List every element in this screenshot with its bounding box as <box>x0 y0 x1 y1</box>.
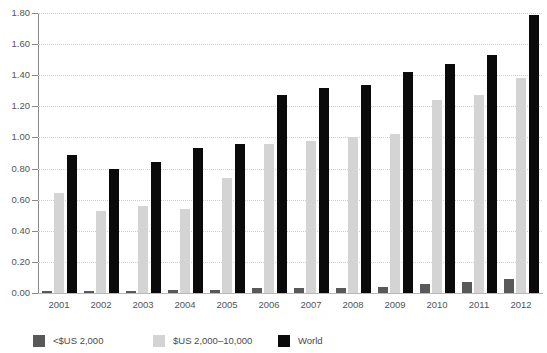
bar <box>126 291 136 293</box>
x-axis-tick-label: 2001 <box>48 299 69 310</box>
y-axis-tick <box>32 231 38 232</box>
x-axis-tick-label: 2012 <box>510 299 531 310</box>
bar <box>193 148 203 293</box>
x-axis-tick-label: 2010 <box>426 299 447 310</box>
y-axis-tick-label: 1.80 <box>0 8 30 18</box>
bar <box>54 193 64 293</box>
y-axis-tick-label: 0.80 <box>0 164 30 174</box>
bar <box>294 288 304 293</box>
bar <box>264 144 274 293</box>
y-axis-tick-label: 0.60 <box>0 195 30 205</box>
legend-label: World <box>298 336 323 346</box>
bar <box>361 85 371 293</box>
y-axis-tick-label: 0.20 <box>0 257 30 267</box>
bar <box>42 291 52 293</box>
gridline <box>38 44 542 45</box>
y-axis-tick <box>32 200 38 201</box>
legend-item[interactable]: <$US 2,000 <box>33 335 103 347</box>
bar <box>138 206 148 293</box>
y-axis-tick <box>32 13 38 14</box>
bar <box>474 95 484 293</box>
bar <box>180 209 190 293</box>
bar <box>306 141 316 293</box>
legend-swatch-icon <box>153 335 165 347</box>
y-axis-tick <box>32 137 38 138</box>
y-axis-tick <box>32 293 38 294</box>
y-axis-tick <box>32 262 38 263</box>
y-axis-tick-label: 0.40 <box>0 226 30 236</box>
x-axis-tick-label: 2007 <box>300 299 321 310</box>
y-axis-tick <box>32 44 38 45</box>
legend-swatch-icon <box>278 335 290 347</box>
x-axis-tick-label: 2011 <box>469 299 489 310</box>
y-axis-tick-label: 1.20 <box>0 102 30 112</box>
y-axis-labels: 0.000.200.400.600.801.001.201.401.601.80 <box>0 0 30 353</box>
y-axis-tick <box>32 106 38 107</box>
bar <box>445 64 455 293</box>
bar <box>336 288 346 293</box>
legend-item[interactable]: $US 2,000–10,000 <box>153 335 252 347</box>
x-axis-tick-label: 2009 <box>384 299 405 310</box>
bar <box>516 78 526 293</box>
bar <box>390 134 400 293</box>
x-axis-tick-label: 2005 <box>216 299 237 310</box>
bar <box>487 55 497 293</box>
bar <box>277 95 287 293</box>
bar <box>432 100 442 293</box>
bar <box>420 284 430 293</box>
gridline <box>38 106 542 107</box>
bar <box>348 137 358 293</box>
x-axis-tick-label: 2004 <box>174 299 195 310</box>
y-axis-tick-label: 0.00 <box>0 288 30 298</box>
bar <box>504 279 514 293</box>
bar <box>96 211 106 293</box>
bar <box>210 290 220 293</box>
y-axis-tick-label: 1.40 <box>0 70 30 80</box>
bar <box>462 282 472 293</box>
bar <box>222 178 232 293</box>
y-axis-tick <box>32 75 38 76</box>
bar <box>67 155 77 293</box>
legend-label: $US 2,000–10,000 <box>173 336 252 346</box>
bar <box>403 72 413 293</box>
bar <box>84 291 94 293</box>
legend-item[interactable]: World <box>278 335 323 347</box>
bar <box>252 288 262 293</box>
bar <box>109 169 119 293</box>
bar <box>151 162 161 293</box>
x-axis-tick-label: 2008 <box>342 299 363 310</box>
bar <box>168 290 178 293</box>
x-axis-line <box>38 293 543 294</box>
plot-area <box>38 13 542 293</box>
gridline <box>38 137 542 138</box>
bar <box>529 15 539 293</box>
gridline <box>38 75 542 76</box>
legend-label: <$US 2,000 <box>53 336 103 346</box>
x-axis-tick-label: 2002 <box>90 299 111 310</box>
y-axis-tick <box>32 169 38 170</box>
bar <box>319 88 329 293</box>
x-axis-tick-label: 2003 <box>132 299 153 310</box>
bar <box>378 287 388 293</box>
x-axis-tick-label: 2006 <box>258 299 279 310</box>
y-axis-tick-label: 1.60 <box>0 39 30 49</box>
legend-swatch-icon <box>33 335 45 347</box>
bar <box>235 144 245 293</box>
y-axis-tick-label: 1.00 <box>0 133 30 143</box>
bar-chart: 0.000.200.400.600.801.001.201.401.601.80… <box>0 0 547 353</box>
gridline <box>38 13 542 14</box>
